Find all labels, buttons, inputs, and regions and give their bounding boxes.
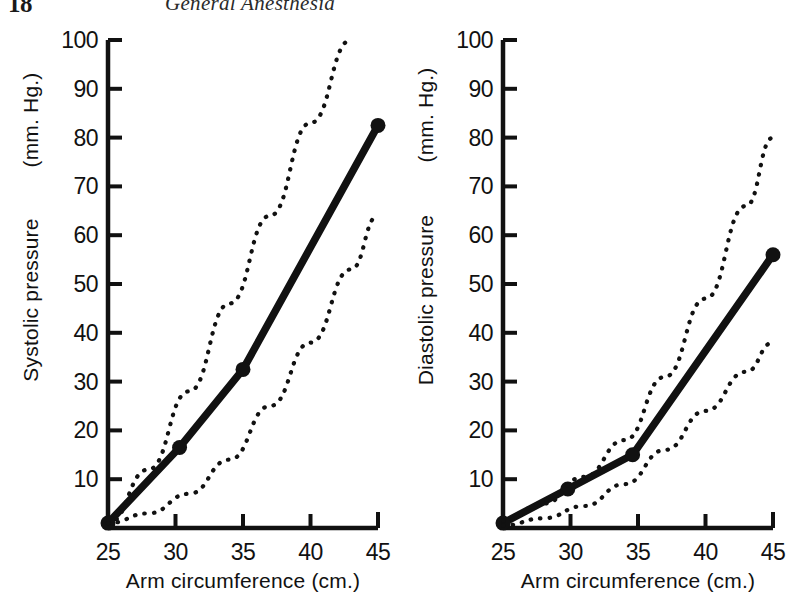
diastolic-xaxis-title: Arm circumference (cm.) [521, 569, 755, 592]
sys-data-point [236, 362, 251, 377]
diastolic-yaxis-title: Diastolic pressure [414, 215, 437, 386]
sys-upper-limit-line [108, 40, 351, 523]
chart-panel-systolic: 1020304050607080901002530354045 Arm circ… [0, 0, 395, 606]
diastolic-yaxis-unit: (mm. Hg.) [414, 67, 437, 162]
sys-ytick-label: 90 [73, 76, 98, 102]
sys-ytick-label: 80 [73, 125, 98, 151]
sys-xtick-label: 30 [163, 539, 188, 565]
sys-data-point [371, 118, 386, 133]
sys-xtick-label: 25 [96, 539, 121, 565]
sys-xtick-label: 45 [366, 539, 391, 565]
diastolic-plot: 1020304050607080901002530354045 Arm circ… [395, 0, 790, 606]
dia-mean-line [503, 255, 773, 523]
dia-ytick-label: 100 [456, 27, 493, 53]
sys-ytick-label: 30 [73, 369, 98, 395]
dia-ytick-label: 40 [468, 320, 493, 346]
dia-xtick-label: 40 [693, 539, 718, 565]
dia-ytick-label: 20 [468, 417, 493, 443]
dia-xtick-label: 25 [491, 539, 516, 565]
dia-upper-limit-line [503, 138, 773, 521]
diastolic-series [496, 138, 781, 531]
sys-ytick-label: 70 [73, 173, 98, 199]
sys-data-point [172, 440, 187, 455]
sys-ytick-label: 60 [73, 222, 98, 248]
dia-ytick-label: 70 [468, 173, 493, 199]
sys-ytick-label: 100 [61, 27, 98, 53]
dia-xtick-label: 30 [558, 539, 583, 565]
dia-ytick-label: 60 [468, 222, 493, 248]
dia-ytick-label: 50 [468, 271, 493, 297]
sys-ytick-label: 40 [73, 320, 98, 346]
dia-xtick-label: 35 [626, 539, 651, 565]
dia-ytick-label: 80 [468, 125, 493, 151]
sys-xtick-label: 40 [298, 539, 323, 565]
dia-ytick-label: 10 [468, 466, 493, 492]
systolic-plot: 1020304050607080901002530354045 Arm circ… [0, 0, 395, 606]
systolic-series [101, 40, 386, 531]
sys-mean-line [108, 125, 378, 523]
dia-data-point [766, 247, 781, 262]
dia-ytick-label: 30 [468, 369, 493, 395]
systolic-yaxis-unit: (mm. Hg.) [19, 72, 42, 167]
dia-data-point [496, 516, 511, 531]
sys-ytick-label: 50 [73, 271, 98, 297]
sys-ytick-label: 10 [73, 466, 98, 492]
systolic-tick-labels: 1020304050607080901002530354045 [61, 27, 390, 565]
systolic-xaxis-title: Arm circumference (cm.) [126, 569, 360, 592]
dia-data-point [625, 447, 640, 462]
systolic-yaxis-title: Systolic pressure [19, 218, 42, 381]
chart-panel-diastolic: 1020304050607080901002530354045 Arm circ… [395, 0, 790, 606]
sys-ytick-label: 20 [73, 417, 98, 443]
sys-xtick-label: 35 [231, 539, 256, 565]
dia-ytick-label: 90 [468, 76, 493, 102]
diastolic-tick-labels: 1020304050607080901002530354045 [456, 27, 785, 565]
dia-xtick-label: 45 [761, 539, 786, 565]
